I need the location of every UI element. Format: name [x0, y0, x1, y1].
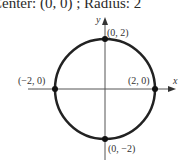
- y-axis-label: y: [95, 14, 101, 25]
- point-label-right: (2, 0): [128, 75, 150, 87]
- point-label-top: (0, 2): [107, 27, 129, 39]
- point-left: [52, 86, 58, 92]
- point-bottom: [102, 136, 108, 142]
- point-label-bottom: (0, −2): [108, 143, 135, 155]
- y-axis-arrow-icon: [102, 17, 108, 25]
- x-axis-label: x: [172, 75, 178, 86]
- point-label-left: (−2, 0): [18, 75, 45, 87]
- point-right: [152, 86, 158, 92]
- circle-graph: y x (0, 2) (2, 0) (−2, 0) (0, −2): [0, 0, 186, 168]
- x-axis-arrow-icon: [168, 86, 176, 92]
